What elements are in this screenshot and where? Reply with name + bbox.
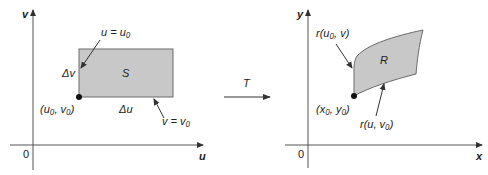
x-axis-label: x bbox=[475, 150, 483, 162]
region-r-label: R bbox=[380, 54, 388, 66]
curve-v-label: r(u₀, v) bbox=[316, 27, 350, 39]
y-axis-label: y bbox=[296, 8, 304, 20]
v-axis-label: v bbox=[22, 8, 29, 20]
edge-v-label: v = v₀ bbox=[162, 115, 191, 127]
origin-label: 0 bbox=[298, 148, 304, 160]
curve-u-label: r(u, v₀) bbox=[360, 118, 394, 130]
xy-plane: x y 0 R (x₀, y₀) r(u₀, v) r(u, v₀) bbox=[285, 8, 483, 168]
u-axis-label: u bbox=[199, 150, 206, 162]
change-of-variables-diagram: u v 0 S (u₀, v₀) Δv Δu u = u₀ v = v₀ T x… bbox=[0, 0, 488, 175]
origin-label: 0 bbox=[23, 148, 29, 160]
transform-label: T bbox=[243, 77, 251, 89]
uv-plane: u v 0 S (u₀, v₀) Δv Δu u = u₀ v = v₀ bbox=[10, 8, 206, 170]
delta-v-label: Δv bbox=[61, 67, 76, 79]
corner-point bbox=[76, 94, 82, 100]
corner-point-label: (x₀, y₀) bbox=[316, 103, 350, 115]
region-s-label: S bbox=[122, 67, 130, 79]
edge-u-label: u = u₀ bbox=[101, 26, 131, 38]
corner-point-label: (u₀, v₀) bbox=[40, 103, 75, 115]
region-r bbox=[354, 30, 423, 96]
curve-v-pointer bbox=[336, 44, 352, 68]
curve-u-pointer bbox=[376, 84, 384, 116]
delta-u-label: Δu bbox=[118, 103, 133, 115]
transform-arrow: T bbox=[224, 77, 270, 97]
corner-point bbox=[351, 93, 357, 99]
